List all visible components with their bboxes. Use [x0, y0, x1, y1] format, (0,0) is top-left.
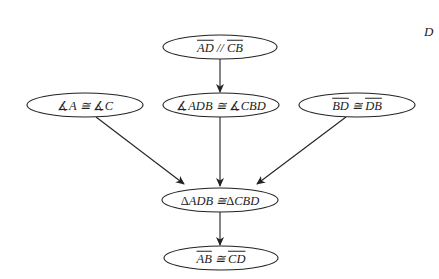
node-label-side_bd_db: BD ≅ DB: [332, 99, 382, 112]
arrow-angles_a_c-to-triangles_congruent: [96, 117, 184, 184]
node-label-angles_adb_cbd: ∡ADB ≅ ∡CBD: [176, 99, 266, 112]
edges-layer: [96, 59, 346, 245]
node-label-angles_a_c: ∡A ≅ ∡C: [57, 99, 113, 112]
arrow-side_bd_db-to-triangles_congruent: [257, 117, 346, 184]
corner-label-d: D: [424, 24, 433, 40]
node-label-triangles_congruent: ΔADB ≅ΔCBD: [181, 194, 260, 207]
node-label-given_parallel: AD // CB: [197, 41, 243, 54]
nodes-layer: [27, 35, 415, 270]
node-label-conclusion: AB ≅ CD: [197, 252, 246, 265]
